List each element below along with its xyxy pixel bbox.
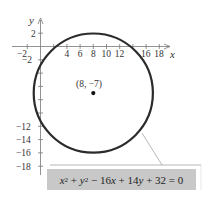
- y-axis-label: y: [28, 14, 34, 26]
- center-label: (8, −7): [76, 79, 102, 90]
- eq-x: x: [60, 174, 65, 186]
- y-tick-label: −2: [22, 55, 32, 65]
- equation-label: x2 + y2 − 16x + 14y + 32 = 0: [47, 169, 196, 190]
- x-tick-label: 8: [91, 49, 96, 59]
- x-tick-label: 16: [141, 49, 151, 59]
- x-axis-label: x: [169, 48, 175, 60]
- eq-term: + 32 = 0: [143, 174, 183, 186]
- eq-term: − 16: [88, 174, 111, 186]
- x-tick-label: 6: [78, 49, 83, 59]
- y-tick-label: −12: [16, 122, 31, 132]
- center-point: [91, 91, 95, 95]
- y-tick-label: −16: [16, 148, 31, 158]
- eq-y: y: [80, 174, 85, 186]
- eq-plus: +: [68, 174, 80, 186]
- y-tick-label: 2: [31, 29, 36, 39]
- x-tick-label: 12: [115, 49, 125, 59]
- eq-term: + 14: [116, 174, 139, 186]
- x-tick-label: 4: [65, 49, 70, 59]
- y-tick-label: −18: [16, 162, 31, 172]
- leader-line: [142, 133, 162, 165]
- x-tick-label: 10: [102, 49, 112, 59]
- y-tick-label: −14: [16, 135, 31, 145]
- x-tick-label: 18: [154, 49, 164, 59]
